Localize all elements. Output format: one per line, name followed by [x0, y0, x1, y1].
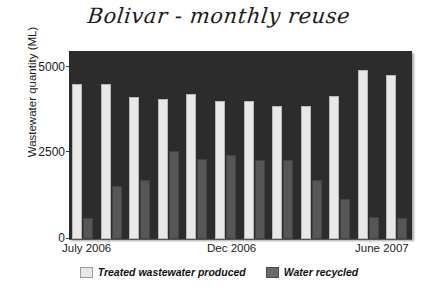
bar-group	[326, 51, 355, 239]
bar-group	[355, 51, 384, 239]
light-swatch-icon	[80, 267, 93, 278]
legend-item-produced: Treated wastewater produced	[80, 266, 246, 278]
bar-produced	[186, 94, 196, 239]
bar-produced	[358, 70, 368, 239]
bar-group	[269, 51, 298, 239]
bar-recycled	[340, 199, 350, 239]
chart-legend: Treated wastewater produced Water recycl…	[0, 266, 438, 278]
bar-recycled	[169, 151, 179, 239]
bar-recycled	[369, 217, 379, 239]
bar-produced	[129, 97, 139, 239]
bar-produced	[158, 99, 168, 239]
y-tick-label-5000: 5000	[23, 61, 65, 73]
y-axis-ticks: 5000 2500 0	[20, 0, 65, 302]
bar-group	[98, 51, 127, 239]
plot-area	[69, 51, 412, 239]
bar-produced	[386, 75, 396, 239]
bar-group	[383, 51, 412, 239]
bar-recycled	[283, 160, 293, 239]
legend-label-recycled: Water recycled	[284, 266, 359, 278]
bar-produced	[272, 106, 282, 239]
bar-recycled	[397, 218, 407, 239]
bar-produced	[244, 101, 254, 239]
bar-recycled	[83, 218, 93, 239]
y-tick-label-2500: 2500	[23, 146, 65, 158]
bar-group	[212, 51, 241, 239]
chart-title: Bolivar - monthly reuse	[0, 4, 438, 28]
bar-group	[298, 51, 327, 239]
bar-group	[69, 51, 98, 239]
y-tick-label-0: 0	[23, 232, 65, 244]
x-axis-line	[69, 239, 412, 240]
bar-recycled	[140, 180, 150, 240]
x-axis-label-mid: Dec 2006	[207, 242, 256, 254]
dark-swatch-icon	[266, 267, 279, 278]
bar-group	[155, 51, 184, 239]
bar-produced	[72, 84, 82, 239]
bars-container	[69, 51, 412, 239]
bar-produced	[301, 106, 311, 239]
legend-label-produced: Treated wastewater produced	[98, 266, 246, 278]
chart-figure: Bolivar - monthly reuse Wastewater quant…	[0, 0, 438, 302]
bar-recycled	[226, 155, 236, 239]
bar-recycled	[255, 160, 265, 239]
bar-produced	[215, 101, 225, 239]
bar-group	[183, 51, 212, 239]
legend-item-recycled: Water recycled	[266, 266, 359, 278]
bar-group	[126, 51, 155, 239]
bar-recycled	[312, 180, 322, 239]
bar-recycled	[112, 186, 122, 239]
x-axis-label-end: June 2007	[355, 242, 409, 254]
bar-recycled	[197, 159, 207, 239]
x-axis-label-start: July 2006	[62, 242, 111, 254]
bar-produced	[329, 96, 339, 239]
bar-produced	[101, 84, 111, 239]
bar-group	[241, 51, 270, 239]
